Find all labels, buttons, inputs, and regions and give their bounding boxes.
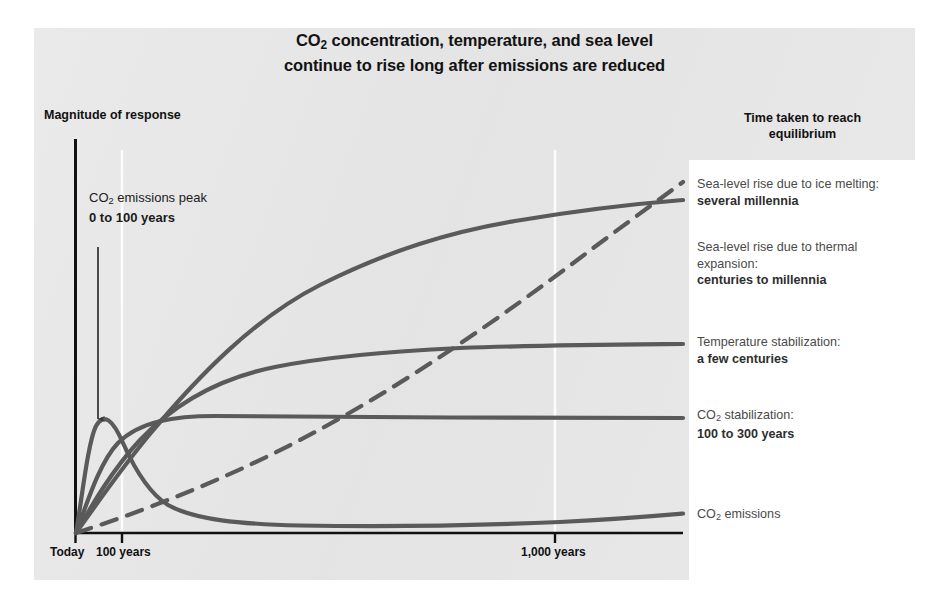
x-tick-label-1000-years: 1,000 years (521, 545, 586, 559)
legend-item-sea-level-thermal-expansion: Sea-level rise due to thermal expansion:… (697, 239, 932, 289)
curve-co2-emissions (76, 419, 683, 533)
legend-item-sea-level-ice-melting: Sea-level rise due to ice melting: sever… (697, 176, 932, 209)
legend-item-value: several millennia (697, 193, 932, 210)
legend-item-temperature-stabilization: Temperature stabilization: a few centuri… (697, 334, 932, 367)
legend-item-value: 100 to 300 years (697, 426, 932, 443)
legend-item-value: a few centuries (697, 351, 932, 368)
legend-item-label: Sea-level rise due to thermal (697, 239, 932, 256)
legend-heading-line1: Time taken to reach (744, 111, 861, 125)
legend-heading-line2: equilibrium (769, 127, 836, 141)
legend-item-label: CO2 stabilization: (697, 407, 932, 426)
x-tick-label-today: Today (50, 545, 84, 559)
x-tick-label-100-years: 100 years (96, 545, 151, 559)
peak-annotation-label: CO2 emissions peak 0 to 100 years (89, 190, 207, 226)
figure-root: CO2 concentration, temperature, and sea … (0, 0, 951, 594)
legend-item-label-cont: expansion: (697, 256, 932, 273)
legend-heading: Time taken to reach equilibrium (690, 110, 915, 142)
legend-item-value: centuries to millennia (697, 272, 932, 289)
curve-sea-level-ice-melting (76, 182, 683, 533)
legend-item-co2-stabilization: CO2 stabilization: 100 to 300 years (697, 407, 932, 443)
legend-item-label: Temperature stabilization: (697, 334, 932, 351)
legend-item-label: CO2 emissions (697, 506, 932, 525)
peak-annotation-line1: CO2 emissions peak (89, 190, 207, 205)
legend-item-label: Sea-level rise due to ice melting: (697, 176, 932, 193)
legend-item-co2-emissions: CO2 emissions (697, 506, 932, 525)
curve-sea-level-thermal-expansion (76, 200, 683, 533)
peak-annotation-line2: 0 to 100 years (89, 210, 207, 227)
curve-co2-stabilization (76, 416, 683, 533)
